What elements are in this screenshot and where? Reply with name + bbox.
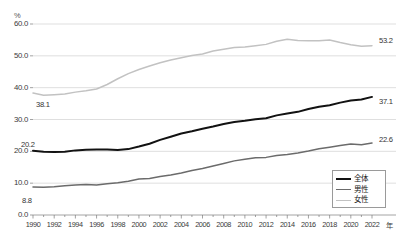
- series-line-女性: [33, 39, 372, 95]
- legend-line-icon: [336, 200, 351, 201]
- y-tick-label: 50.0: [2, 51, 28, 60]
- legend-item-女性[interactable]: 女性: [336, 195, 382, 206]
- female-end-value: 53.2: [379, 36, 393, 45]
- chart-legend: 全体男性女性: [332, 170, 386, 208]
- male-start-value: 8.8: [22, 196, 32, 205]
- y-tick-label: 60.0: [2, 19, 28, 28]
- female-start-value: 38.1: [36, 100, 50, 109]
- y-tick-label: 30.0: [2, 115, 28, 124]
- y-tick-label: 0.0: [2, 210, 28, 219]
- legend-line-icon: [336, 178, 351, 180]
- y-tick-label: 40.0: [2, 83, 28, 92]
- series-line-全体: [33, 97, 372, 152]
- legend-item-男性[interactable]: 男性: [336, 185, 382, 196]
- line-chart: % 0.010.020.030.040.050.060.0 1990199219…: [0, 0, 404, 239]
- x-tick-label: 2022: [357, 220, 387, 229]
- total-end-value: 37.1: [379, 97, 393, 106]
- male-end-value: 22.6: [379, 135, 393, 144]
- y-tick-label: 10.0: [2, 178, 28, 187]
- total-start-value: 20.2: [21, 140, 35, 149]
- legend-item-label: 全体: [354, 174, 368, 184]
- x-axis-unit-label: 年: [386, 220, 393, 230]
- legend-line-icon: [336, 189, 351, 190]
- legend-item-全体[interactable]: 全体: [336, 174, 382, 185]
- legend-item-label: 男性: [354, 185, 368, 195]
- legend-item-label: 女性: [354, 195, 368, 205]
